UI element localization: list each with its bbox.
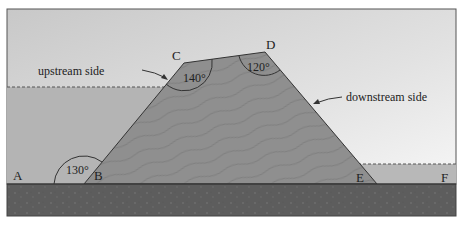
dam-diagram: A B C D E F 130° 140° 120° upstream side… [0, 0, 469, 226]
point-label-A: A [13, 168, 23, 183]
point-label-C: C [172, 48, 181, 63]
angle-label-B: 130° [66, 163, 89, 177]
angle-label-C: 140° [183, 71, 206, 85]
point-label-D: D [266, 37, 275, 52]
point-label-F: F [441, 170, 448, 185]
downstream-side-label: downstream side [346, 90, 427, 104]
ground [7, 184, 456, 216]
point-label-B: B [94, 168, 103, 183]
point-label-E: E [356, 170, 364, 185]
upstream-side-label: upstream side [38, 64, 104, 78]
angle-label-D: 120° [247, 60, 270, 74]
